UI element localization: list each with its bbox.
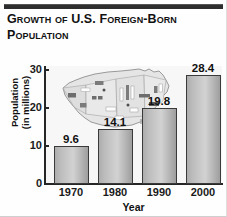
x-tick-label-1970: 1970: [49, 186, 93, 198]
bar-value-2000: 28.4: [182, 62, 224, 74]
bar-1990: [142, 108, 177, 184]
x-axis-title: Year: [44, 201, 223, 213]
y-tick-label-0: 0: [16, 178, 42, 189]
y-axis-title: Population (in millions): [10, 55, 31, 151]
chart-figure: Growth of U.S. Foreign-Born Population: [0, 0, 227, 217]
bar-1970: [54, 146, 89, 184]
bar-2000: [186, 75, 221, 184]
bar-value-1980: 14.1: [94, 116, 136, 128]
y-tick-10: [44, 145, 49, 147]
y-tick-20: [44, 107, 49, 109]
y-tick-30: [44, 69, 49, 71]
bar-value-1970: 9.6: [50, 133, 92, 145]
bar-value-1990: 19.8: [138, 95, 180, 107]
x-tick-label-2000: 2000: [181, 186, 225, 198]
y-axis-line: [44, 66, 46, 185]
bar-1980: [98, 129, 133, 184]
x-tick-label-1990: 1990: [137, 186, 181, 198]
y-axis-title-line2: (in millions): [20, 55, 31, 151]
y-axis-title-line1: Population: [10, 55, 21, 151]
x-tick-label-1980: 1980: [93, 186, 137, 198]
y-tick-0: [44, 183, 49, 185]
